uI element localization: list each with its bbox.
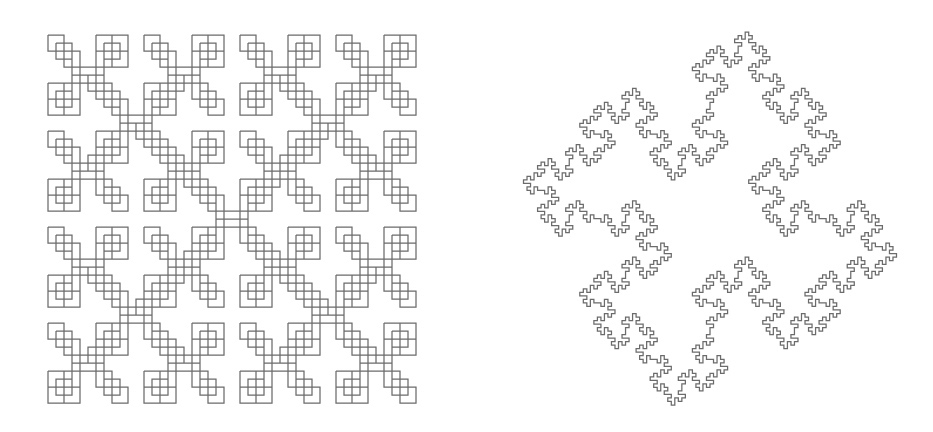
square-cross-fractal-paths [48,35,416,403]
square-cross-fractal-outline [48,35,416,403]
quadratic-koch-island-outline [524,32,897,405]
quadratic-koch-island [466,0,933,432]
figure-panel-right [466,0,933,432]
figure-canvas [0,0,933,432]
square-cross-fractal [0,0,466,432]
figure-panel-left [0,0,466,432]
quadratic-koch-island-paths [524,32,897,405]
